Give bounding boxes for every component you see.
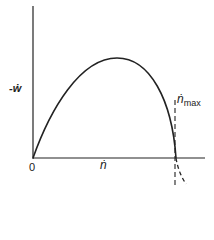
- nmax-label-sub: max: [184, 98, 201, 108]
- origin-label: 0: [29, 161, 35, 173]
- y-axis-label: -ẇ: [9, 82, 21, 94]
- curve-extension-dashed: [176, 158, 186, 184]
- nmax-label: ṅmax: [177, 92, 201, 108]
- nmax-label-main: ṅ: [177, 92, 184, 106]
- x-axis-label: ṅ: [100, 158, 107, 172]
- work-curve: [33, 58, 176, 158]
